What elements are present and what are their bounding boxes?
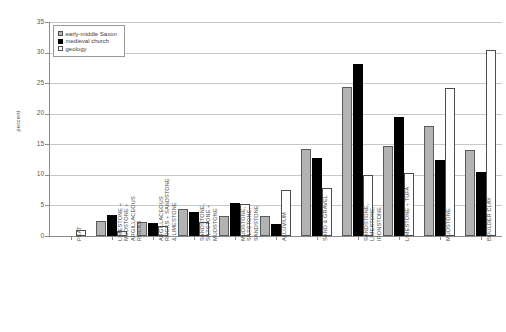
bar [424,126,434,236]
y-tick-label: 15 [22,141,44,148]
x-tick-mark [71,236,72,240]
x-category-label: ARGILLACEOUS ROCKS + SANDSTONE & LIMESTO… [158,155,177,241]
bar-group [460,22,501,236]
x-tick-mark [276,236,277,240]
bar [189,212,199,236]
bar [301,149,311,236]
bar [230,203,240,236]
x-tick-mark [194,236,195,240]
x-tick-mark [358,236,359,240]
y-tick-label: 0 [22,233,44,240]
bar-group [419,22,460,236]
bar-group [255,22,296,236]
x-tick-mark [317,236,318,240]
y-tick-label: 25 [22,80,44,87]
x-category-label: LIMESTONE + TUFA [404,155,410,241]
bar [342,87,352,236]
x-category-label: SAND & GRAVEL [322,155,328,241]
legend-label: medieval church [66,38,110,44]
bar [178,209,188,236]
bar-group [296,22,337,236]
bar [107,215,117,236]
x-category-label: BOULDER CLAY [486,155,492,241]
bar [435,160,445,236]
bar [476,172,486,236]
legend-swatch-icon [58,31,63,36]
x-tick-mark [481,236,482,240]
bar [96,221,106,236]
bar [312,158,322,236]
legend-label: geology [66,46,87,52]
bar [260,216,270,236]
x-tick-mark [112,236,113,240]
bar [394,117,404,236]
legend-swatch-icon [58,39,63,44]
y-tick-label: 20 [22,110,44,117]
x-category-label: SANDSTONE, SILTSTONE + MUDSTONE [199,155,218,241]
x-category-label: PEAT [76,155,82,241]
y-tick-label: 10 [22,171,44,178]
bar [148,223,158,236]
x-tick-mark [153,236,154,240]
bar [271,224,281,236]
y-tick-label: 30 [22,49,44,56]
y-axis-title: percent [15,91,21,151]
bar-group [378,22,419,236]
x-tick-mark [399,236,400,240]
y-tick-label: 35 [22,19,44,26]
x-category-label: LIMESTONE + MUDSTONE + ARGILLACEOUS ROCK… [117,155,143,241]
legend-label: early-middle Saxon [66,31,117,37]
x-category-label: ALLUVIUM [281,155,287,241]
bar [219,216,229,236]
bar [465,150,475,236]
bar-chart: percent 05101520253035 PEATLIMESTONE + M… [0,0,506,332]
x-category-label: MUDSTONE [445,155,451,241]
bar [353,64,363,236]
chart-legend: early-middle Saxon medieval church geolo… [53,25,125,57]
bar [383,146,393,236]
x-tick-mark [440,236,441,240]
x-category-label: SANDSTONE, LIMESTONE, IRONSTONE [363,155,382,241]
legend-item-medieval-church: medieval church [58,38,120,44]
legend-item-early-middle-saxon: early-middle Saxon [58,31,120,37]
x-tick-mark [235,236,236,240]
x-category-label: MUDSTONE, SILTSTONE, SANDSTONE [240,155,259,241]
y-tick-label: 5 [22,202,44,209]
legend-swatch-icon [58,46,63,51]
legend-item-geology: geology [58,46,120,52]
